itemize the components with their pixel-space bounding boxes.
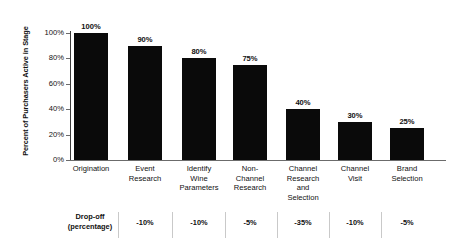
bar	[233, 65, 267, 160]
bar-chart: Percent of Purchasers Active in Stage 10…	[0, 0, 454, 247]
dropoff-separator	[225, 212, 226, 238]
bar-value-label: 80%	[191, 47, 206, 56]
bar-value-label: 90%	[137, 35, 152, 44]
x-axis-category-label: BrandSelection	[374, 164, 440, 183]
dropoff-value: -5%	[243, 218, 256, 227]
bar-value-label: 25%	[399, 117, 414, 126]
y-axis-title: Percent of Purchasers Active in Stage	[18, 18, 32, 164]
y-tick-label: 0%	[40, 155, 64, 164]
y-tick-label: 60%	[40, 79, 64, 88]
dropoff-value: -5%	[400, 218, 413, 227]
dropoff-value: -10%	[136, 218, 153, 227]
bar	[286, 109, 320, 160]
bar-value-label: 30%	[347, 111, 362, 120]
bar	[128, 46, 162, 160]
x-axis-line	[70, 160, 446, 161]
bar-value-label: 100%	[81, 22, 100, 31]
bar-value-label: 75%	[242, 54, 257, 63]
bar	[338, 122, 372, 160]
dropoff-title-line1: Drop-off	[75, 212, 104, 221]
dropoff-separator	[277, 212, 278, 238]
y-tick-label: 20%	[40, 130, 64, 139]
y-tick-label: 100%	[40, 28, 64, 37]
dropoff-separator	[172, 212, 173, 238]
y-tick-label: 80%	[40, 53, 64, 62]
y-tick-mark	[66, 160, 70, 161]
bar	[182, 58, 216, 160]
dropoff-value: -35%	[294, 218, 311, 227]
dropoff-separator	[118, 212, 119, 238]
bar-value-label: 40%	[295, 98, 310, 107]
dropoff-value: -10%	[190, 218, 207, 227]
dropoff-row: Drop-off (percentage) -10%-10%-5%-35%-10…	[62, 212, 446, 240]
dropoff-value: -10%	[346, 218, 363, 227]
dropoff-separator	[329, 212, 330, 238]
dropoff-title-line2: (percentage)	[68, 222, 112, 231]
dropoff-separator	[381, 212, 382, 238]
dropoff-row-title: Drop-off (percentage)	[62, 212, 118, 232]
bar	[390, 128, 424, 160]
y-tick-label: 40%	[40, 104, 64, 113]
bar	[74, 33, 108, 160]
plot-area	[70, 33, 446, 160]
